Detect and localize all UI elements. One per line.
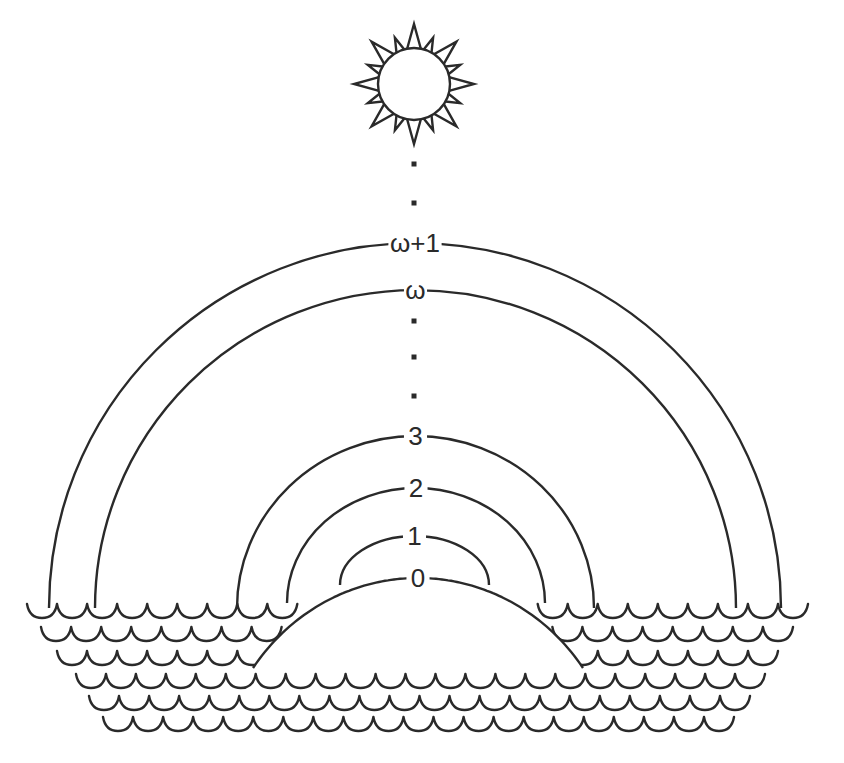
wave-row bbox=[76, 674, 765, 688]
label-1: 1 bbox=[407, 521, 421, 551]
sun-icon bbox=[354, 24, 474, 144]
ellipsis-dot bbox=[412, 394, 417, 399]
ordinal-rainbow-diagram: ω+1ω3210 bbox=[0, 0, 844, 763]
ellipsis-dot bbox=[412, 201, 417, 206]
wave-row bbox=[89, 696, 750, 710]
sun-disc-icon bbox=[378, 48, 450, 120]
wave-row bbox=[103, 717, 734, 731]
label-3: 3 bbox=[408, 421, 422, 451]
ellipsis-dot bbox=[412, 162, 417, 167]
label-0: 0 bbox=[411, 563, 425, 593]
label-2: 2 bbox=[409, 473, 423, 503]
ellipsis-dot bbox=[412, 355, 417, 360]
label-omega: ω bbox=[405, 275, 425, 305]
label-omega-plus-1: ω+1 bbox=[390, 228, 440, 258]
ellipsis-dot bbox=[412, 319, 417, 324]
